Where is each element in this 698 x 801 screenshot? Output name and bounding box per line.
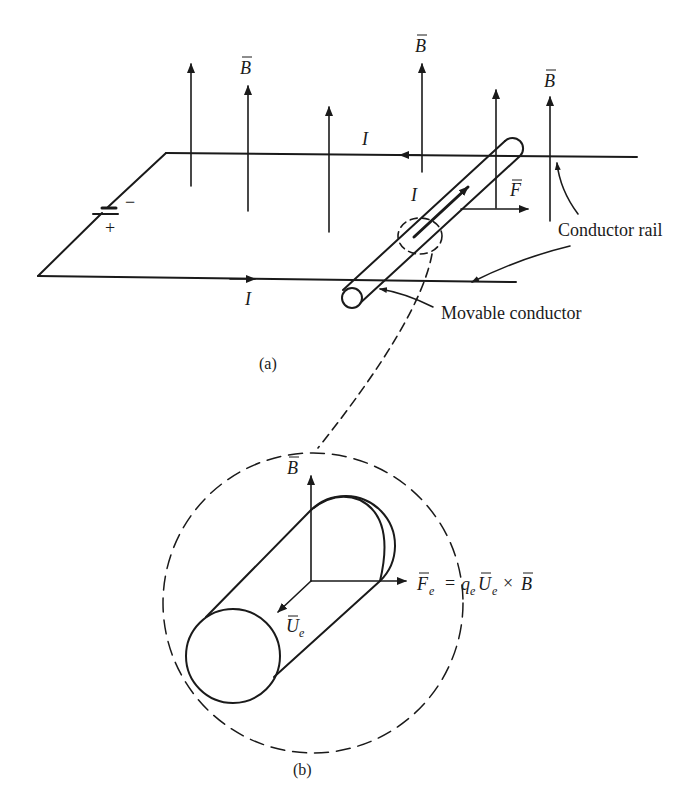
svg-text:B: B xyxy=(544,71,555,91)
movable-conductor-label: Movable conductor xyxy=(441,303,581,323)
b-labels: B B B xyxy=(240,35,556,91)
svg-text:U: U xyxy=(478,574,492,594)
conductor-rail-leader-top xyxy=(557,163,578,214)
battery-icon xyxy=(93,208,118,214)
rail-gun-diagram: B B B I I I F − + Conductor rail Movable… xyxy=(0,0,698,801)
svg-text:F: F xyxy=(416,574,429,594)
current-label-conductor: I xyxy=(410,185,418,205)
caption-b: (b) xyxy=(293,761,312,779)
velocity-label: U e xyxy=(286,616,305,640)
force-equation: F e = q e U e × B xyxy=(416,573,533,598)
force-label: F xyxy=(509,180,522,200)
svg-text:e: e xyxy=(492,584,498,598)
movable-conductor-leader xyxy=(380,289,433,307)
svg-text:×: × xyxy=(503,573,513,593)
svg-text:U: U xyxy=(286,616,300,636)
current-label-bottom: I xyxy=(244,289,252,309)
svg-text:e: e xyxy=(299,626,305,640)
svg-text:B: B xyxy=(415,36,426,56)
detail-circle xyxy=(163,453,463,753)
detail-connector xyxy=(318,254,432,448)
caption-a: (a) xyxy=(259,355,277,373)
battery-minus-label: − xyxy=(125,192,135,212)
svg-text:e: e xyxy=(429,584,435,598)
svg-text:q: q xyxy=(461,574,470,594)
battery-plus-label: + xyxy=(105,218,115,238)
svg-text:e: e xyxy=(470,584,476,598)
circuit xyxy=(38,153,637,282)
conductor-rail-leader-bottom xyxy=(472,246,570,282)
conductor-rail-label: Conductor rail xyxy=(558,220,662,240)
svg-text:=: = xyxy=(445,573,455,593)
current-label-top: I xyxy=(361,129,369,149)
svg-text:B: B xyxy=(521,574,532,594)
velocity-axis xyxy=(278,581,311,612)
detail-b-label: B xyxy=(287,458,298,478)
svg-text:B: B xyxy=(240,58,251,78)
